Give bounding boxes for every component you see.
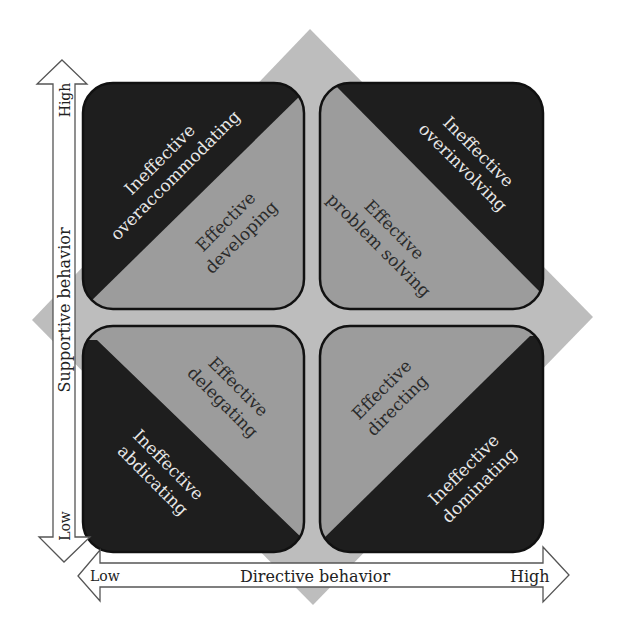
leadership-style-diagram: Ineffective overaccommodating Effective … xyxy=(0,0,619,636)
x-axis-title: Directive behavior xyxy=(240,567,391,586)
quadrant-top-right: Ineffective overinvolving Effective prob… xyxy=(320,83,543,309)
x-axis-high-label: High xyxy=(510,567,550,586)
quadrant-bottom-right: Effective directing Ineffective dominati… xyxy=(320,326,543,552)
x-axis-low-label: Low xyxy=(90,568,120,584)
y-axis-high-label: High xyxy=(57,83,73,118)
quadrant-bottom-left: Effective delegating Ineffective abdicat… xyxy=(83,326,304,552)
y-axis-title: Supportive behavior xyxy=(55,227,74,393)
y-axis-low-label: Low xyxy=(57,511,73,541)
quadrant-top-left: Ineffective overaccommodating Effective … xyxy=(83,83,304,309)
